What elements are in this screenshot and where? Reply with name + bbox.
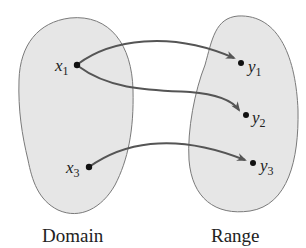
point-y3 (250, 160, 256, 166)
domain-caption: Domain (42, 225, 104, 246)
point-x3 (86, 164, 92, 170)
point-y2 (243, 112, 249, 118)
point-x1 (74, 62, 80, 68)
range-caption: Range (211, 225, 260, 246)
point-y1 (238, 60, 244, 66)
mapping-diagram: x1 x3 y1 y2 y3 Domain Range (0, 0, 306, 248)
